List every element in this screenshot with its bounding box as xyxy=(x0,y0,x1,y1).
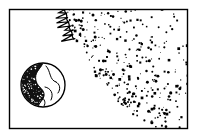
corona-dot xyxy=(107,12,109,14)
corona-dot xyxy=(139,62,141,64)
corona-dot xyxy=(84,36,85,37)
earth-stipple-dot xyxy=(35,66,37,68)
corona-dot xyxy=(175,100,177,102)
earth-stipple-dot xyxy=(27,93,29,95)
corona-dot xyxy=(159,46,160,47)
corona-dot xyxy=(155,126,156,127)
earth-stipple-dot xyxy=(25,90,26,91)
corona-dot xyxy=(136,50,137,51)
corona-dot xyxy=(140,19,142,21)
corona-dot xyxy=(128,91,131,94)
earth-stipple-dot xyxy=(38,91,39,92)
corona-dot xyxy=(77,19,80,22)
corona-dot xyxy=(84,44,85,45)
corona-dot xyxy=(73,14,75,16)
corona-dot xyxy=(127,101,129,103)
corona-dot xyxy=(94,36,97,39)
corona-dot xyxy=(141,42,142,43)
corona-dot xyxy=(169,59,170,60)
corona-dot xyxy=(116,38,118,40)
corona-dot xyxy=(122,68,125,71)
corona-dot xyxy=(111,71,112,72)
earth-stipple-dot xyxy=(25,85,26,86)
corona-dot xyxy=(105,68,107,70)
corona-dot xyxy=(128,78,130,80)
corona-dot xyxy=(138,49,140,51)
corona-dot xyxy=(117,92,118,93)
corona-dot xyxy=(97,29,98,30)
earth-group xyxy=(21,63,65,107)
corona-dot xyxy=(177,47,180,50)
corona-dot xyxy=(152,89,154,91)
corona-dot xyxy=(124,99,126,101)
corona-dot xyxy=(182,46,183,47)
corona-dot xyxy=(126,20,128,22)
corona-dot xyxy=(164,117,166,119)
corona-dot xyxy=(148,59,151,62)
corona-dot xyxy=(82,28,85,31)
corona-dot xyxy=(147,91,149,93)
corona-dot xyxy=(154,92,157,95)
corona-dot xyxy=(106,83,107,84)
corona-dot xyxy=(85,40,87,42)
earth-stipple-dot xyxy=(27,83,28,84)
corona-dot xyxy=(118,59,119,60)
corona-dot xyxy=(112,79,113,80)
corona-dot xyxy=(157,116,159,118)
corona-dot xyxy=(130,11,131,12)
corona-dot xyxy=(140,46,141,47)
corona-dot xyxy=(89,13,90,14)
corona-dot xyxy=(125,54,127,56)
corona-dot xyxy=(165,121,167,123)
corona-dot xyxy=(73,19,75,21)
corona-dot xyxy=(138,102,140,104)
corona-dot xyxy=(128,48,130,50)
corona-dot xyxy=(136,110,138,112)
corona-dot xyxy=(126,84,127,85)
corona-dot xyxy=(91,57,92,58)
earth-stipple-dot xyxy=(22,84,23,85)
corona-dot xyxy=(175,71,176,72)
corona-dot xyxy=(127,83,129,85)
earth-stipple-dot xyxy=(34,89,35,90)
corona-dot xyxy=(136,88,137,89)
corona-dot xyxy=(67,12,68,13)
corona-dot xyxy=(146,60,148,62)
corona-dot xyxy=(98,60,100,62)
corona-dot xyxy=(133,27,135,29)
corona-dot xyxy=(129,63,130,64)
corona-dot xyxy=(79,32,81,34)
corona-dot xyxy=(80,27,82,29)
corona-dot xyxy=(100,44,101,45)
corona-dot xyxy=(123,62,124,63)
corona-dot xyxy=(119,96,121,98)
corona-dot xyxy=(101,12,102,13)
corona-dot xyxy=(160,93,161,94)
corona-dot xyxy=(108,24,109,25)
corona-dot xyxy=(135,101,136,102)
corona-dot xyxy=(98,37,99,38)
corona-dot xyxy=(144,88,145,89)
earth-stipple-dot xyxy=(31,88,32,89)
corona-dot xyxy=(166,113,169,116)
corona-dot xyxy=(129,104,130,105)
corona-dot xyxy=(161,109,163,111)
earth-stipple-dot xyxy=(30,85,31,86)
corona-dot xyxy=(141,90,143,92)
earth-stipple-dot xyxy=(35,84,37,86)
corona-dot xyxy=(166,41,167,42)
corona-dot xyxy=(151,41,153,43)
corona-dot xyxy=(130,66,132,68)
corona-dot xyxy=(164,42,165,43)
corona-dot xyxy=(92,39,94,41)
corona-dot xyxy=(93,67,95,69)
corona-dot xyxy=(165,125,168,128)
corona-dot xyxy=(99,68,102,71)
corona-dot xyxy=(159,115,161,117)
corona-dot xyxy=(163,107,164,108)
corona-dot xyxy=(156,75,159,78)
corona-dot xyxy=(140,73,141,74)
earth-stipple-dot xyxy=(29,89,30,90)
corona-dot xyxy=(161,125,163,127)
earth-stipple-dot xyxy=(36,92,37,93)
